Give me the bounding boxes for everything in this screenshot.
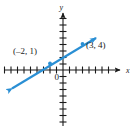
coordinate-plane-figure: x y 0 (–2, 1) (3, 4) <box>0 0 137 132</box>
y-axis-label: y <box>59 3 64 12</box>
x-axis <box>4 67 120 74</box>
graph-svg: x y 0 (–2, 1) (3, 4) <box>0 0 137 132</box>
data-point-right <box>81 42 85 46</box>
origin-label: 0 <box>55 72 60 82</box>
point-label-right: (3, 4) <box>86 40 106 50</box>
point-label-left: (–2, 1) <box>13 46 37 56</box>
x-axis-label: x <box>125 66 130 75</box>
data-point-left <box>48 62 52 66</box>
